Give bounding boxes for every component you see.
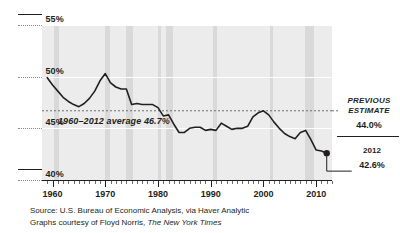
x-axis-label: 2000 — [253, 189, 273, 199]
x-axis-major-tick — [316, 181, 317, 187]
x-axis-minor-tick — [258, 181, 259, 184]
x-axis-minor-tick — [111, 181, 112, 184]
chart-figure: 1960–2012 average 46.7% 55%50%45%40% 196… — [0, 0, 400, 233]
y-axis-label: 55% — [45, 14, 64, 24]
x-axis-minor-tick — [84, 181, 85, 184]
footer-line-1: Source: U.S. Bureau of Economic Analysis… — [30, 205, 390, 217]
x-axis-minor-tick — [58, 181, 59, 184]
y-axis-tick-dash — [18, 128, 42, 129]
x-axis-minor-tick — [290, 181, 291, 184]
y-axis-label: 40% — [45, 169, 64, 179]
x-axis-minor-tick — [100, 181, 101, 184]
footer-line-2-prefix: Graphs courtesy of Floyd Norris, — [30, 218, 147, 227]
x-axis-minor-tick — [195, 181, 196, 184]
x-axis-label: 1960 — [43, 189, 63, 199]
x-axis-minor-tick — [274, 181, 275, 184]
x-axis-minor-tick — [169, 181, 170, 184]
x-axis-major-tick — [263, 181, 264, 187]
x-axis-minor-tick — [63, 181, 64, 184]
plot-area — [42, 25, 332, 180]
x-axis-major-tick — [53, 181, 54, 187]
footer-publication: The New York Times — [147, 218, 221, 227]
x-axis-minor-tick — [121, 181, 122, 184]
x-axis-minor-tick — [163, 181, 164, 184]
x-axis-minor-tick — [142, 181, 143, 184]
x-axis-minor-tick — [190, 181, 191, 184]
x-axis-minor-tick — [295, 181, 296, 184]
x-axis-major-tick — [105, 181, 106, 187]
x-axis-minor-tick — [311, 181, 312, 184]
footer-line-2: Graphs courtesy of Floyd Norris, The New… — [30, 217, 390, 229]
x-axis-minor-tick — [327, 181, 328, 184]
x-axis-minor-tick — [232, 181, 233, 184]
x-axis-minor-tick — [47, 181, 48, 184]
previous-estimate-title: PREVIOUS ESTIMATE — [341, 96, 397, 116]
previous-estimate-line1: PREVIOUS — [348, 96, 391, 105]
x-axis-line — [42, 180, 332, 181]
average-label: 1960–2012 average 46.7% — [58, 116, 170, 126]
y-axis-tick-dash — [18, 25, 42, 26]
labor-share-line — [47, 74, 326, 154]
x-axis-minor-tick — [184, 181, 185, 184]
x-axis-minor-tick — [68, 181, 69, 184]
x-axis-minor-tick — [137, 181, 138, 184]
x-axis-major-tick — [211, 181, 212, 187]
y-axis-rule — [18, 14, 42, 15]
endpoint-marker — [324, 150, 330, 156]
y-axis-label: 50% — [45, 66, 64, 76]
x-axis-minor-tick — [306, 181, 307, 184]
x-axis-minor-tick — [179, 181, 180, 184]
x-axis-minor-tick — [221, 181, 222, 184]
x-axis-minor-tick — [95, 181, 96, 184]
callout-separator-rule — [337, 136, 399, 137]
x-axis-minor-tick — [285, 181, 286, 184]
x-axis-minor-tick — [227, 181, 228, 184]
previous-estimate-value: 44.0% — [341, 120, 397, 130]
y-axis-label: 45% — [45, 117, 64, 127]
x-axis-label: 1990 — [201, 189, 221, 199]
x-axis-minor-tick — [253, 181, 254, 184]
current-value-label: 42.6% — [348, 160, 396, 170]
x-axis-minor-tick — [332, 181, 333, 184]
x-axis-minor-tick — [126, 181, 127, 184]
y-axis-tick-dash — [18, 180, 42, 181]
x-axis-minor-tick — [74, 181, 75, 184]
x-axis-minor-tick — [200, 181, 201, 184]
x-axis-minor-tick — [153, 181, 154, 184]
x-axis-minor-tick — [248, 181, 249, 184]
x-axis-minor-tick — [279, 181, 280, 184]
x-axis-minor-tick — [132, 181, 133, 184]
x-axis-minor-tick — [242, 181, 243, 184]
x-axis-major-tick — [158, 181, 159, 187]
x-axis-minor-tick — [174, 181, 175, 184]
previous-estimate-line2: ESTIMATE — [348, 106, 389, 115]
x-axis-label: 2010 — [306, 189, 326, 199]
x-axis-label: 1970 — [95, 189, 115, 199]
x-axis-label: 1980 — [148, 189, 168, 199]
data-line-svg — [42, 25, 332, 180]
x-axis-minor-tick — [89, 181, 90, 184]
x-axis-minor-tick — [216, 181, 217, 184]
x-axis-minor-tick — [147, 181, 148, 184]
current-year-label: 2012 — [348, 146, 396, 155]
x-axis-minor-tick — [205, 181, 206, 184]
x-axis-minor-tick — [116, 181, 117, 184]
x-axis-minor-tick — [300, 181, 301, 184]
x-axis-minor-tick — [321, 181, 322, 184]
footer-source: Source: U.S. Bureau of Economic Analysis… — [30, 205, 390, 228]
y-axis-rule — [18, 169, 42, 170]
y-axis-tick-dash — [18, 77, 42, 78]
x-axis-minor-tick — [237, 181, 238, 184]
x-axis-minor-tick — [79, 181, 80, 184]
x-axis-minor-tick — [269, 181, 270, 184]
